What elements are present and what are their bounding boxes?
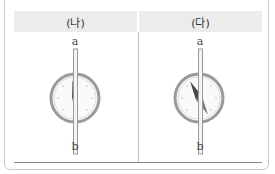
- wire-icon: [74, 49, 78, 154]
- header-da: (다): [139, 11, 262, 32]
- header-na: (나): [14, 11, 137, 32]
- wire-icon: [199, 49, 203, 154]
- label-b: b: [69, 140, 81, 153]
- cell-da: a b: [139, 32, 263, 162]
- table-bottom-rule: [14, 162, 262, 163]
- label-b: b: [194, 140, 206, 153]
- cell-na: a b: [14, 32, 138, 162]
- compass-table: (나) (다) a: [14, 11, 262, 163]
